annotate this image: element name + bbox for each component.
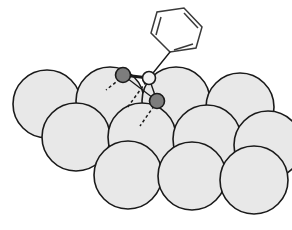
surface-adsorbate-diagram [0,0,292,230]
phenyl-ring [151,8,202,52]
metal-atom-f2 [158,142,226,210]
metal-atom-f1 [94,141,162,209]
figure-root: Phenyl-containing adsorbate on close-pac… [0,0,292,230]
ring-double-bond-a [156,17,161,35]
metal-atom-f3 [220,146,288,214]
adsorbate-atom-center [143,72,156,85]
surface-row-front [94,141,288,214]
adsorbate-atom-right [150,94,165,109]
phenyl-ring-hexagon [151,8,202,52]
adsorbate-atom-left [116,68,131,83]
